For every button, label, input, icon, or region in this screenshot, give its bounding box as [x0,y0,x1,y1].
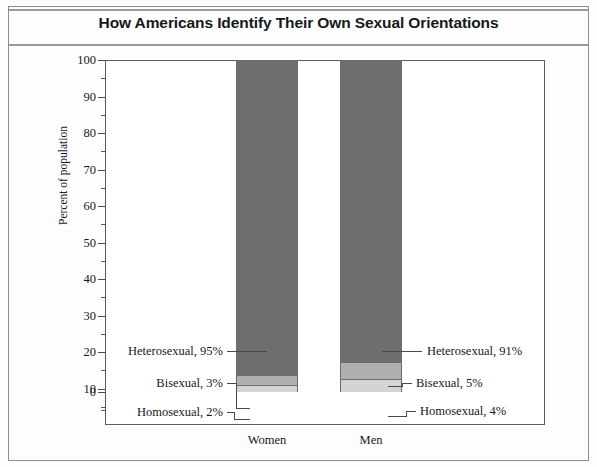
y-axis-title: Percent of population [57,126,69,225]
plot-area: 100 90 80 70 60 50 40 30 20 10 0 [105,60,545,425]
bar-women-segment-homosexual [236,385,298,392]
x-category-label-women: Women [248,433,287,448]
x-category-label-men: Men [360,433,383,448]
annotation-women-heterosexual: Heterosexual, 95% [105,344,223,359]
y-tick-100 [98,60,105,61]
leader-women-bisexual-h2 [236,408,250,409]
leader-men-homosexual-h1 [388,416,406,417]
annotation-men-homosexual: Homosexual, 4% [420,404,546,419]
y-tick-minor-25 [101,334,105,335]
y-tick-minor-75 [101,151,105,152]
title-rule-top [9,9,588,11]
y-tick-minor-35 [101,297,105,298]
y-tick-label-100: 100 [77,53,96,68]
y-tick-label-80: 80 [84,126,97,141]
y-tick-30 [98,316,105,317]
leader-women-heterosexual [227,351,267,352]
annotation-women-bisexual: Bisexual, 3% [125,376,223,391]
leader-women-homosexual-h2 [234,419,250,420]
y-tick-label-0: 0 [90,385,96,400]
y-tick-minor-below-0 [101,410,105,411]
bar-men-segment-bisexual [340,362,402,379]
y-tick-minor-45 [101,261,105,262]
y-tick-0 [98,392,105,393]
bar-women-segment-bisexual [236,375,298,385]
y-tick-70 [98,170,105,171]
y-tick-minor-15 [101,370,105,371]
y-tick-minor-85 [101,115,105,116]
annotation-men-heterosexual: Heterosexual, 91% [427,344,557,359]
y-tick-50 [98,243,105,244]
y-tick-minor-65 [101,188,105,189]
y-tick-label-50: 50 [84,235,97,250]
leader-women-homosexual-v [234,412,235,419]
y-tick-10 [98,389,105,390]
y-tick-minor-55 [101,224,105,225]
title-rule-bottom [9,44,588,46]
y-tick-60 [98,206,105,207]
chart-title: How Americans Identify Their Own Sexual … [9,14,588,32]
y-tick-label-20: 20 [84,345,97,360]
y-tick-minor-5 [101,407,105,408]
y-tick-label-60: 60 [84,199,97,214]
leader-women-bisexual-v [236,383,237,408]
y-tick-20 [98,352,105,353]
leader-men-heterosexual [382,351,422,352]
y-tick-label-40: 40 [84,272,97,287]
bar-men-segment-heterosexual [340,60,402,362]
y-tick-label-70: 70 [84,162,97,177]
annotation-women-homosexual: Homosexual, 2% [107,405,223,420]
figure-canvas: How Americans Identify Their Own Sexual … [0,0,597,467]
leader-men-bisexual-h2 [402,383,412,384]
y-tick-90 [98,97,105,98]
y-tick-80 [98,133,105,134]
y-tick-minor-95 [101,78,105,79]
y-tick-label-30: 30 [84,308,97,323]
bar-women-segment-heterosexual [236,60,298,375]
y-tick-40 [98,279,105,280]
leader-men-bisexual-h1 [388,386,402,387]
y-tick-label-90: 90 [84,89,97,104]
annotation-men-bisexual: Bisexual, 5% [416,376,526,391]
leader-men-homosexual-h2 [406,411,416,412]
